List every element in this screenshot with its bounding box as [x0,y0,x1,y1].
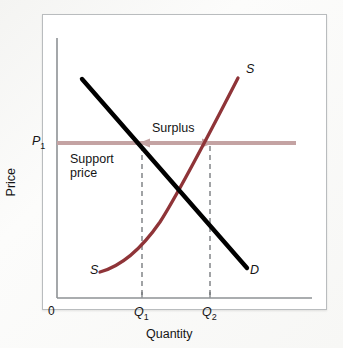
supply-curve-label-bottom: S [90,263,98,277]
support-price-line2: price [70,166,114,180]
x-axis-title: Quantity [146,327,193,341]
axis-label-p1: P1 [32,134,45,151]
supply-curve [100,78,238,272]
support-price-line1: Support [70,152,114,166]
y-axis-title: Price [4,168,18,196]
supply-curve-label-top: S [246,62,254,76]
figure-container: P1 Support price Surplus S S D 0 Q1 Q2 Q… [0,0,343,348]
axis-label-q1: Q1 [134,305,149,322]
surplus-annotation: Surplus [152,121,194,135]
demand-curve-label: D [250,263,259,277]
axis-label-q2: Q2 [202,305,217,322]
chart-canvas [0,0,343,348]
origin-label: 0 [48,305,55,319]
support-price-annotation: Support price [70,152,114,181]
